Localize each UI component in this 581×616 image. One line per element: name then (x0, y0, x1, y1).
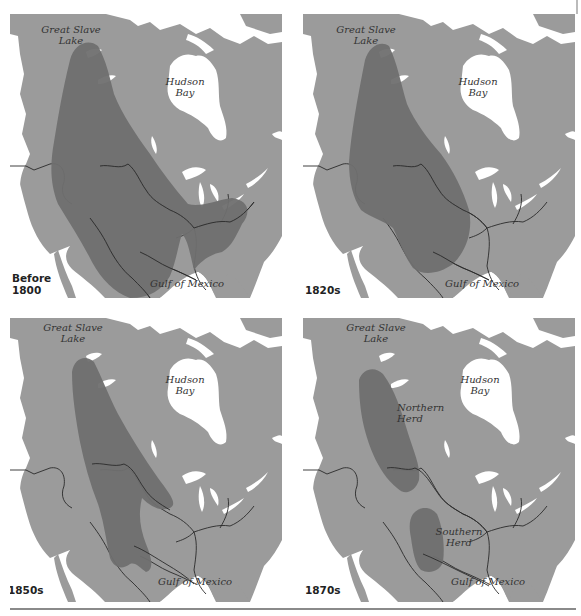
bottom-rule-divider (10, 608, 576, 610)
label-southern-herd: SouthernHerd (431, 526, 487, 548)
label-northern-herd: NorthernHerd (397, 402, 453, 424)
label-great-slave-lake: Great SlaveLake (36, 24, 106, 46)
label-great-slave-lake: Great SlaveLake (341, 322, 411, 344)
era-label: Before1800 (12, 272, 51, 296)
label-great-slave-lake: Great SlaveLake (331, 24, 401, 46)
era-label: 1820s (305, 284, 340, 296)
era-label: 1870s (305, 584, 340, 596)
label-gulf-of-mexico: Gulf of Mexico (451, 576, 541, 587)
label-hudson-bay: HudsonBay (455, 374, 505, 396)
label-gulf-of-mexico: Gulf of Mexico (445, 278, 535, 289)
map-panel-before-1800: Great SlaveLake HudsonBay Gulf of Mexico… (10, 14, 282, 298)
map-panel-1820s: Great SlaveLake HudsonBay Gulf of Mexico… (303, 14, 575, 298)
label-hudson-bay: HudsonBay (160, 76, 210, 98)
map-before-1800 (10, 14, 282, 298)
label-hudson-bay: HudsonBay (160, 374, 210, 396)
map-1870s (303, 318, 575, 602)
era-label: 1850s (10, 584, 43, 596)
map-1850s (10, 318, 282, 602)
map-panel-1850s: Great SlaveLake HudsonBay Gulf of Mexico… (10, 318, 282, 602)
label-gulf-of-mexico: Gulf of Mexico (150, 278, 240, 289)
label-great-slave-lake: Great SlaveLake (38, 322, 108, 344)
label-hudson-bay: HudsonBay (453, 76, 503, 98)
map-1820s (303, 14, 575, 298)
map-panel-1870s: Great SlaveLake HudsonBay NorthernHerd S… (303, 318, 575, 602)
label-gulf-of-mexico: Gulf of Mexico (158, 576, 248, 587)
edge-mark (576, 0, 578, 14)
